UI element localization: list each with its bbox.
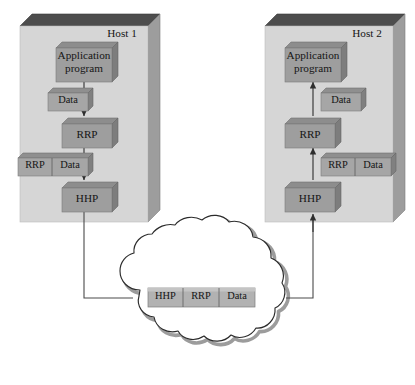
diagram-graphics [0, 0, 415, 385]
host-1-rrp-data-pdu-box [18, 153, 93, 176]
host-1-rrp-box [62, 118, 118, 148]
diagram-canvas: Host 1 Application program Data RRP RRP … [0, 0, 415, 385]
host-2-data-pdu-box [321, 88, 366, 111]
host-2-network-link [286, 214, 313, 298]
host-2-rrp-box [285, 118, 341, 148]
host-2-application-program-box [285, 42, 347, 82]
host-1-data-pdu-box [48, 88, 93, 111]
host-2-rrp-data-pdu-box [321, 153, 396, 176]
host-2-hhp-box [285, 182, 341, 212]
network-packet-box [148, 288, 255, 307]
host-1-hhp-box [62, 182, 118, 212]
network-cloud-shape [120, 215, 288, 344]
host-1-application-program-box [56, 42, 118, 82]
